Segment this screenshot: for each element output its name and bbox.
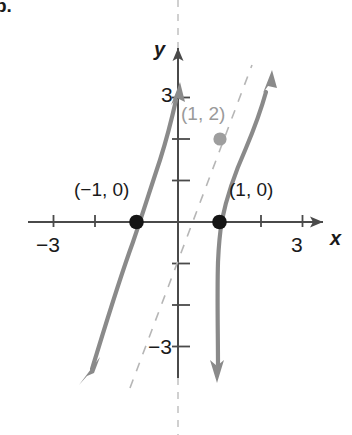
point-label-neg1-0: (−1, 0) xyxy=(74,180,129,199)
point-label-1-2: (1, 2) xyxy=(181,104,225,123)
left-curve xyxy=(92,100,176,369)
y-tick-label-neg3: −3 xyxy=(148,336,172,357)
coordinate-plane-graph xyxy=(0,0,352,435)
figure-container: b. xyxy=(0,0,352,435)
right-curve-arrow-top xyxy=(263,70,277,93)
x-axis-label: x xyxy=(330,228,341,248)
right-curve xyxy=(218,92,266,365)
marked-point-neg1-0 xyxy=(129,215,144,230)
marked-point-1-2 xyxy=(213,132,226,145)
marked-point-1-0 xyxy=(212,215,227,230)
left-curve-arrow-bottom xyxy=(79,357,100,385)
point-label-1-0: (1, 0) xyxy=(229,180,273,199)
y-tick-label-3: 3 xyxy=(161,84,173,105)
x-tick-label-3: 3 xyxy=(291,234,303,255)
x-tick-label-neg3: −3 xyxy=(36,234,60,255)
y-axis-label: y xyxy=(154,39,165,59)
